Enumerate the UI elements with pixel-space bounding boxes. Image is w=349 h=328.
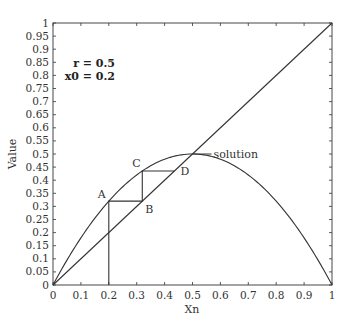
solution-label: solution <box>214 148 259 161</box>
annotation-r: r = 0.5 <box>73 57 115 70</box>
y-tick-label: 0.5 <box>32 148 49 160</box>
annotation-x0: x0 = 0.2 <box>65 70 115 83</box>
x-tick-label: 0.6 <box>212 289 229 301</box>
x-tick-label: 0.3 <box>128 289 145 301</box>
x-tick-label: 0.4 <box>156 289 173 301</box>
map-curve <box>53 154 332 285</box>
y-axis-label: Value <box>6 139 19 171</box>
y-tick-label: 0.7 <box>32 95 49 107</box>
y-tick-label: 0.75 <box>26 82 49 94</box>
x-tick-label: 0.2 <box>100 289 117 301</box>
point-label-b: B <box>145 203 153 216</box>
x-tick-label: 0.9 <box>296 289 313 301</box>
y-tick-label: 0.05 <box>26 265 49 277</box>
y-tick-label: 0.25 <box>26 213 49 225</box>
y-tick-label: 0.85 <box>26 56 49 68</box>
point-label-d: D <box>180 165 189 178</box>
x-tick-label: 0.5 <box>184 289 201 301</box>
x-tick-label: 0 <box>50 289 57 301</box>
y-tick-label: 0.95 <box>26 30 49 42</box>
x-tick-label: 0.7 <box>240 289 257 301</box>
x-tick-label: 1 <box>329 289 336 301</box>
y-tick-label: 0.35 <box>26 187 49 199</box>
y-tick-label: 0.55 <box>26 134 49 146</box>
cobweb-path <box>109 171 175 285</box>
y-tick-label: 0.8 <box>32 69 49 81</box>
y-tick-label: 0.9 <box>32 43 49 55</box>
cobweb-chart: 00.050.10.150.20.250.30.350.40.450.50.55… <box>0 0 349 328</box>
point-label-a: A <box>97 188 107 201</box>
point-label-c: C <box>132 157 140 170</box>
x-axis-label: Xn <box>185 303 200 316</box>
y-tick-label: 0.15 <box>26 239 49 251</box>
y-tick-label: 0.3 <box>32 200 49 212</box>
point-labels: ABCDsolution <box>97 148 258 216</box>
y-tick-label: 0.1 <box>32 252 49 264</box>
y-tick-label: 0.6 <box>32 121 49 133</box>
y-tick-label: 1 <box>42 17 49 29</box>
y-tick-label: 0.2 <box>32 226 49 238</box>
y-tick-label: 0.45 <box>26 161 49 173</box>
y-tick-label: 0 <box>42 279 49 291</box>
y-axis-ticks: 00.050.10.150.20.250.30.350.40.450.50.55… <box>26 17 332 291</box>
x-tick-label: 0.1 <box>73 289 90 301</box>
x-tick-label: 0.8 <box>268 289 285 301</box>
y-tick-label: 0.4 <box>32 174 49 186</box>
y-tick-label: 0.65 <box>26 108 49 120</box>
